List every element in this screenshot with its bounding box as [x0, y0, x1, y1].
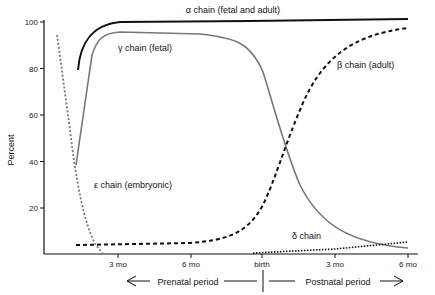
ytick-60: 60 — [29, 111, 38, 120]
ytick-20: 20 — [29, 204, 38, 213]
delta-label: δ chain — [292, 231, 321, 241]
beta-label: β chain (adult) — [337, 60, 394, 70]
y-axis-label: Percent — [6, 134, 16, 166]
delta-chain-line — [253, 242, 408, 253]
ytick-40: 40 — [29, 158, 38, 167]
ytick-100: 100 — [25, 18, 39, 27]
ytick-80: 80 — [29, 65, 38, 74]
prenatal-period-label: Prenatal period — [157, 277, 218, 287]
period-indicator: Prenatal period Postnatal period — [127, 270, 403, 292]
arrow-left-icon — [127, 276, 150, 286]
xtick-birth: birth — [254, 260, 270, 269]
epsilon-chain-line — [57, 35, 103, 254]
alpha-label: α chain (fetal and adult) — [186, 5, 280, 15]
xtick-6mo-postnatal: 6 mo — [399, 260, 417, 269]
x-ticks: 3 mo 6 mo birth 3 mo 6 mo — [109, 254, 417, 269]
hemoglobin-chain-chart: 100 80 60 40 20 Percent 3 mo 6 mo birth … — [0, 0, 435, 295]
gamma-label: γ chain (fetal) — [118, 43, 172, 53]
y-ticks: 100 80 60 40 20 — [25, 18, 44, 213]
epsilon-label: ε chain (embryonic) — [94, 180, 172, 190]
xtick-3mo-postnatal: 3 mo — [326, 260, 344, 269]
postnatal-period-label: Postnatal period — [305, 277, 370, 287]
xtick-3mo-prenatal: 3 mo — [109, 260, 127, 269]
xtick-6mo-prenatal: 6 mo — [182, 260, 200, 269]
arrow-right-icon — [380, 276, 403, 286]
